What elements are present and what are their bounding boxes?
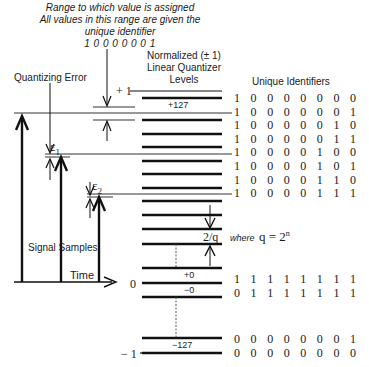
- identifiers-middle: 11111111 01111111: [234, 273, 356, 299]
- unique-identifiers-title: Unique Identifiers: [252, 76, 330, 87]
- identifier-row: 10000111: [234, 187, 356, 199]
- minus-127-label: −127: [172, 340, 192, 350]
- plus-one-label: + 1: [116, 84, 132, 99]
- identifier-row: 00000001: [234, 333, 356, 345]
- levels-title-line-1: Normalized (± 1): [138, 50, 230, 62]
- identifier-row: 11111111: [234, 273, 356, 285]
- epsilon-2-label: ε2: [92, 178, 102, 196]
- zero-label: 0: [130, 277, 136, 292]
- minus-0-label: −0: [184, 285, 194, 295]
- annotation-line-3: unique identifier: [20, 26, 220, 37]
- identifier-row: 10000110: [234, 174, 356, 186]
- identifier-row: 10000100: [234, 146, 356, 158]
- levels-title-line-3: Levels: [138, 74, 230, 86]
- quantizing-error-label: Quantizing Error: [14, 72, 87, 83]
- epsilon-1-label: ε1: [50, 139, 60, 157]
- identifier-row: 10000001: [234, 106, 356, 118]
- identifier-row: 01111111: [234, 287, 356, 299]
- formula: q = 2n: [259, 229, 290, 245]
- annotation-line-2: All values in this range are given the: [10, 14, 230, 25]
- identifier-row: 10000011: [234, 133, 356, 145]
- plus-127-label: +127: [168, 100, 188, 110]
- plus-0-label: +0: [184, 270, 194, 280]
- identifiers-bottom: 00000001 00000000: [234, 333, 356, 359]
- levels-title-line-2: Linear Quantizer: [138, 62, 230, 74]
- signal-samples-label: Signal Samples: [28, 242, 97, 253]
- time-axis-label: Time: [70, 269, 94, 281]
- annotation-identifier: 1 0 0 0 0 0 0 1: [20, 38, 220, 49]
- where-label: where: [230, 233, 255, 243]
- identifier-row: 10000101: [234, 160, 356, 172]
- minus-one-label: − 1: [121, 347, 137, 362]
- levels-title: Normalized (± 1) Linear Quantizer Levels: [138, 50, 230, 86]
- identifier-row: 00000000: [234, 347, 356, 359]
- identifiers-top: 10000000 10000001 10000010 10000011 1000…: [234, 92, 356, 199]
- identifier-row: 10000000: [234, 92, 356, 104]
- step-size-label: 2/q: [203, 230, 218, 245]
- annotation-line-1: Range to which value is assigned: [20, 2, 220, 13]
- identifier-row: 10000010: [234, 119, 356, 131]
